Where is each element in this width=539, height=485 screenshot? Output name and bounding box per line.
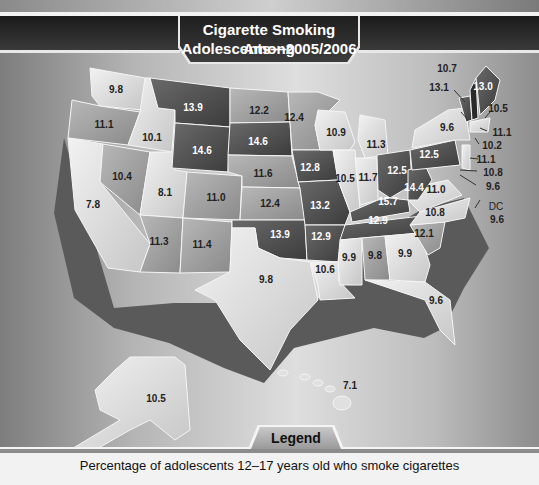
- label-mo: 13.2: [310, 200, 329, 211]
- label-mi: 11.3: [367, 139, 386, 150]
- us-map: [0, 0, 539, 485]
- label-ny: 9.6: [440, 122, 454, 133]
- label-ia: 12.8: [300, 162, 319, 173]
- label-dc: 9.6: [490, 214, 504, 225]
- label-ar: 12.9: [311, 231, 330, 242]
- label-ne: 11.6: [254, 168, 273, 179]
- label-ok: 13.9: [270, 229, 289, 240]
- label-hi: 7.1: [343, 380, 357, 391]
- legend-rule-left: [0, 447, 250, 449]
- label-ms: 9.9: [342, 252, 356, 263]
- label-sd: 14.6: [248, 136, 267, 147]
- label-ca: 7.8: [86, 199, 100, 210]
- label-ct: 10.2: [482, 140, 501, 151]
- label-sc: 12.1: [414, 228, 433, 239]
- label-vt: 13.1: [429, 82, 448, 93]
- title-rule-left: [0, 50, 180, 53]
- label-la: 10.6: [315, 264, 334, 275]
- label-nh: 10.7: [437, 63, 456, 74]
- label-wv: 14.4: [404, 182, 423, 193]
- label-il: 10.5: [335, 173, 354, 184]
- label-nv: 10.4: [112, 171, 131, 182]
- state-hi: [278, 370, 351, 410]
- label-nj: 11.1: [477, 154, 496, 165]
- label-fl: 9.6: [429, 295, 443, 306]
- label-ks: 12.4: [260, 198, 279, 209]
- state-mi: [358, 115, 388, 158]
- label-ri: 11.1: [493, 127, 512, 138]
- title-rule-right: [358, 50, 539, 53]
- label-mt: 13.9: [183, 102, 202, 113]
- label-pa: 12.5: [419, 149, 438, 160]
- label-nd: 12.2: [249, 105, 268, 116]
- label-nm: 11.4: [193, 239, 212, 250]
- label-ma: 10.5: [488, 103, 507, 114]
- label-nc: 10.8: [425, 207, 444, 218]
- legend-rule-right: [342, 447, 539, 449]
- label-dc-name: DC: [489, 201, 503, 212]
- label-az: 11.3: [150, 236, 169, 247]
- label-co: 11.0: [207, 192, 226, 203]
- label-tx: 9.8: [259, 274, 273, 285]
- label-or: 11.1: [95, 119, 114, 130]
- state-ak: [70, 357, 190, 450]
- label-ky: 15.7: [378, 196, 397, 207]
- label-de: 10.8: [483, 167, 502, 178]
- label-id: 10.1: [142, 132, 161, 143]
- label-md: 9.6: [486, 181, 500, 192]
- label-mn: 12.4: [284, 112, 303, 123]
- label-wi: 10.9: [326, 127, 345, 138]
- legend-label: Legend: [251, 430, 341, 446]
- label-tn: 12.9: [368, 215, 387, 226]
- label-va: 11.0: [427, 184, 446, 195]
- label-wy: 14.6: [192, 145, 211, 156]
- label-ga: 9.9: [398, 248, 412, 259]
- legend-caption: Percentage of adolescents 12–17 years ol…: [0, 458, 539, 473]
- label-in: 11.7: [359, 172, 378, 183]
- title-line-2: Adolescents—2005/2006: [180, 39, 358, 58]
- label-ak: 10.5: [146, 393, 165, 404]
- label-wa: 9.8: [109, 84, 123, 95]
- label-oh: 12.5: [387, 165, 406, 176]
- state-nj: [462, 145, 470, 170]
- label-ut: 8.1: [158, 187, 172, 198]
- label-al: 9.8: [368, 250, 382, 261]
- label-me: 13.0: [473, 81, 492, 92]
